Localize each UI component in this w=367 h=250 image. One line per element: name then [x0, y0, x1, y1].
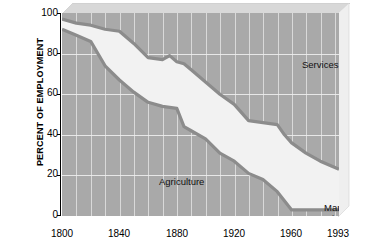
x-tick-label-1920: 1920 — [214, 228, 254, 239]
y-tick-mark-60 — [57, 94, 61, 95]
y-axis-line — [60, 13, 61, 216]
x-tick-label-1800: 1800 — [42, 228, 82, 239]
plot-right-bevel — [338, 3, 354, 217]
y-axis-tick-labels: 100 80 60 40 20 0 — [28, 0, 58, 250]
y-tick-label-40: 40 — [34, 129, 58, 139]
x-tick-label-1993: 1993 — [318, 228, 358, 239]
annotation-services: Services — [302, 59, 338, 70]
y-tick-mark-0 — [57, 215, 61, 216]
y-tick-mark-20 — [57, 175, 61, 176]
annotation-manufacturing: Manufacturing, mining, and construction — [324, 203, 339, 216]
y-tick-label-80: 80 — [34, 48, 58, 58]
annotation-agriculture: Agriculture — [159, 176, 204, 187]
y-tick-label-0: 0 — [34, 210, 58, 220]
y-tick-mark-40 — [57, 134, 61, 135]
y-tick-label-60: 60 — [34, 88, 58, 98]
y-tick-label-20: 20 — [34, 169, 58, 179]
y-tick-mark-100 — [57, 13, 61, 14]
chart-figure: PERCENT OF EMPLOYMENT 100 80 60 40 20 0 — [0, 0, 367, 250]
y-tick-mark-80 — [57, 53, 61, 54]
y-tick-label-100: 100 — [34, 8, 58, 18]
x-tick-label-1880: 1880 — [157, 228, 197, 239]
x-tick-label-1960: 1960 — [271, 228, 311, 239]
annotation-manufacturing-line2: mining, and — [324, 214, 339, 217]
annotation-manufacturing-line1: Manufacturing, — [324, 203, 339, 214]
x-tick-label-1840: 1840 — [99, 228, 139, 239]
plot-area: Services Agriculture Manufacturing, mini… — [62, 13, 339, 216]
